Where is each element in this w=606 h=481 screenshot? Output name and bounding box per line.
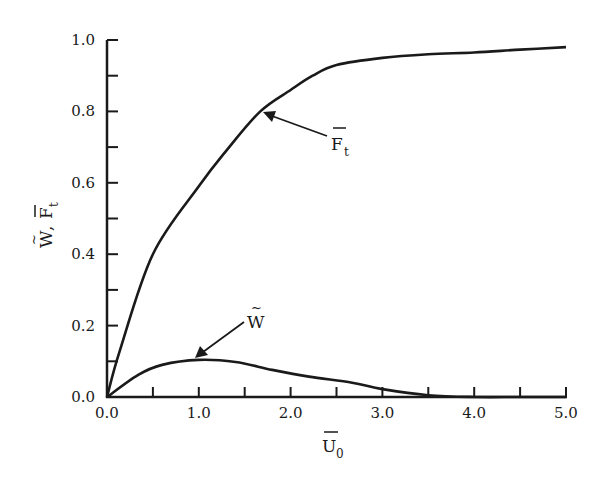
- tick-label: 1.0: [187, 404, 211, 422]
- svg-text:0: 0: [336, 447, 344, 461]
- tick-label: 3.0: [370, 404, 394, 422]
- tick-label: 2.0: [279, 404, 303, 422]
- tick-label: 0.8: [71, 102, 95, 120]
- svg-text:t: t: [47, 202, 61, 207]
- tick-label: 0.0: [71, 388, 95, 406]
- tick-label: 0.6: [71, 174, 95, 192]
- tick-label: 4.0: [462, 404, 486, 422]
- tick-label: 1.0: [71, 31, 95, 49]
- y-axis-label: ~ W , F t: [26, 202, 61, 248]
- svg-text:W: W: [36, 230, 56, 248]
- tick-label: 0.4: [71, 245, 95, 263]
- svg-text:F: F: [36, 207, 56, 219]
- tick-label: 0.0: [95, 404, 119, 422]
- svg-text:t: t: [344, 145, 349, 159]
- ft-label: F t: [331, 128, 349, 159]
- svg-text:F: F: [331, 134, 343, 154]
- tick-labels: 0.00.20.40.60.81.00.01.02.03.04.05.0: [71, 31, 578, 422]
- svg-text:,: ,: [36, 226, 56, 231]
- tick-label: 5.0: [554, 404, 578, 422]
- tick-label: 0.2: [71, 317, 95, 335]
- x-axis-label: U 0: [322, 432, 344, 461]
- ft-arrow-icon: [263, 111, 327, 136]
- w-arrow-icon: [195, 322, 244, 358]
- w-label: ~ W: [247, 300, 265, 332]
- ft-curve: [107, 47, 566, 397]
- svg-text:W: W: [247, 312, 265, 332]
- svg-text:U: U: [322, 436, 336, 456]
- chart-canvas: 0.00.20.40.60.81.00.01.02.03.04.05.0 F t…: [0, 0, 606, 481]
